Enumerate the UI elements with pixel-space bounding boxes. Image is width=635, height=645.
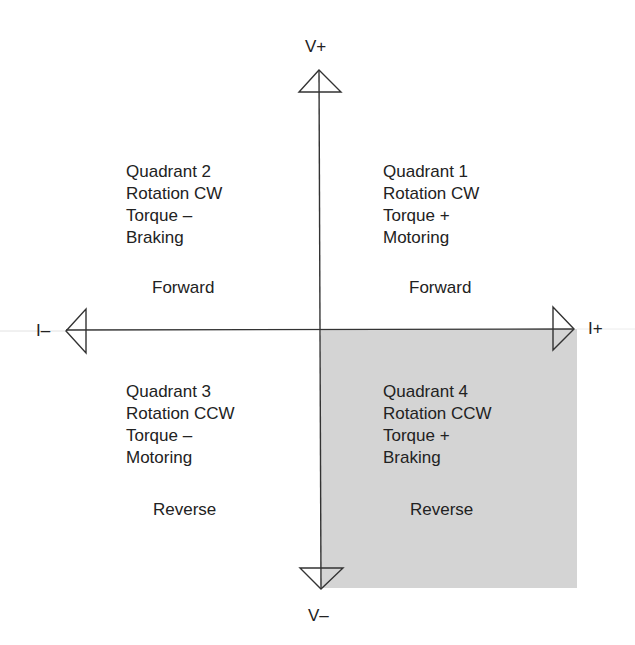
quadrant-1-text: Quadrant 1 Rotation CW Torque + Motoring [383,161,479,249]
quadrant-2-text: Quadrant 2 Rotation CW Torque – Braking [126,161,222,249]
quadrant-1-mode: Motoring [383,227,479,249]
i-minus-label: I– [36,321,50,341]
v-plus-label: V+ [305,37,326,57]
quadrant-4-rotation: Rotation CCW [383,403,492,425]
quadrant-3-rotation: Rotation CCW [126,403,235,425]
quadrant-3-mode: Motoring [126,447,235,469]
i-plus-label: I+ [588,319,603,339]
quadrant-1-direction: Forward [409,278,471,298]
quadrant-2-mode: Braking [126,227,222,249]
quadrant-2-direction: Forward [152,278,214,298]
quadrant-3-title: Quadrant 3 [126,381,235,403]
quadrant-4-title: Quadrant 4 [383,381,492,403]
quadrant-4-direction: Reverse [410,500,473,520]
quadrant-3-text: Quadrant 3 Rotation CCW Torque – Motorin… [126,381,235,469]
quadrant-4-text: Quadrant 4 Rotation CCW Torque + Braking [383,381,492,469]
quadrant-3-direction: Reverse [153,500,216,520]
quadrant-1-title: Quadrant 1 [383,161,479,183]
quadrant-2-torque: Torque – [126,205,222,227]
quadrant-1-rotation: Rotation CW [383,183,479,205]
i-minus-arrow-icon [66,309,86,353]
quadrant-4-mode: Braking [383,447,492,469]
quadrant-4-torque: Torque + [383,425,492,447]
quadrant-1-torque: Torque + [383,205,479,227]
quadrant-3-torque: Torque – [126,425,235,447]
v-plus-arrow-icon [299,70,341,92]
quadrant-2-rotation: Rotation CW [126,183,222,205]
quadrant-2-title: Quadrant 2 [126,161,222,183]
v-minus-label: V– [308,606,329,626]
quadrant-diagram [0,0,635,645]
